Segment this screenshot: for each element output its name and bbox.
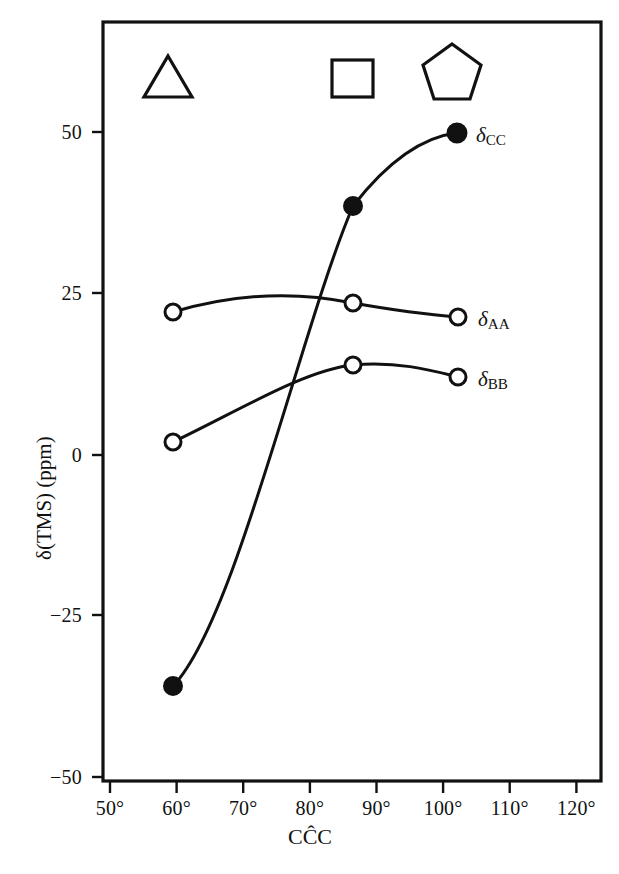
figure-panel: 50 25 0 −25 −50 50° 60° 70° 80° 90° 100°… [0,0,619,874]
series-label-delta-cc-symbol: δ [476,123,486,147]
plot-frame [103,22,601,781]
x-tick-label-110: 110° [491,797,529,820]
y-axis-title: δ(TMS) (ppm) [32,436,57,560]
y-tick-label-50: 50 [18,121,82,144]
x-tick-label-100: 100° [424,797,463,820]
x-tick-label-50: 50° [96,797,125,820]
x-tick-label-90: 90° [362,797,391,820]
series-label-delta-aa-symbol: δ [478,307,488,331]
y-tick-label-neg50: −50 [18,766,82,789]
x-tick-label-70: 70° [229,797,258,820]
x-tick-label-60: 60° [162,797,191,820]
x-tick-label-120: 120° [557,797,596,820]
chart-plot-area [0,0,619,874]
y-tick-label-neg25: −25 [18,604,82,627]
x-tick-label-80: 80° [296,797,325,820]
y-axis-ticks [92,132,103,777]
series-label-delta-aa: δAA [478,307,510,333]
series-label-delta-cc-subscript: CC [486,132,506,148]
series-label-delta-cc: δCC [476,123,506,149]
series-label-delta-bb-symbol: δ [478,367,488,391]
x-axis-title: CĈC [288,824,332,850]
series-label-delta-aa-subscript: AA [488,316,510,332]
series-label-delta-bb: δBB [478,367,508,393]
series-label-delta-bb-subscript: BB [488,376,508,392]
y-tick-label-25: 25 [18,282,82,305]
x-axis-ticks [110,781,576,793]
